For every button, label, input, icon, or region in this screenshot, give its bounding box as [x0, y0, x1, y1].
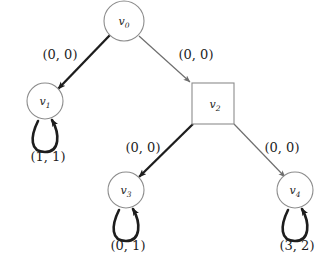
edge-group — [58, 35, 285, 177]
node-v0[interactable]: v0 — [104, 1, 144, 41]
self-loop-v1-path — [33, 120, 58, 152]
self-loop-v1[interactable] — [33, 120, 58, 152]
edge-label-v0-v1: (0, 0) — [43, 47, 78, 62]
edge-v0-v1-line — [58, 35, 110, 89]
self-loop-v4-path — [283, 209, 308, 241]
weight-label-group: (1, 1) (0, 1) (3, 2) — [31, 149, 315, 253]
edge-label-group: (0, 0) (0, 0) (0, 0) (0, 0) — [43, 47, 300, 155]
node-v4[interactable]: v4 — [277, 172, 313, 208]
edge-label-v0-v2: (0, 0) — [179, 47, 214, 62]
edge-v0-v1[interactable] — [58, 35, 110, 89]
graph-diagram: v0 v1 v2 v3 v4 — [0, 0, 325, 272]
node-v3[interactable]: v3 — [108, 172, 144, 208]
weight-label-v1: (1, 1) — [31, 149, 66, 164]
node-v1[interactable]: v1 — [27, 83, 63, 119]
self-loop-v3[interactable] — [114, 209, 139, 241]
weight-label-v4: (3, 2) — [280, 238, 315, 253]
edge-label-v2-v3: (0, 0) — [126, 140, 161, 155]
self-loop-group — [33, 120, 308, 241]
self-loop-v4[interactable] — [283, 209, 308, 241]
node-group: v0 v1 v2 v3 v4 — [27, 1, 313, 208]
edge-label-v2-v4: (0, 0) — [265, 140, 300, 155]
weight-label-v3: (0, 1) — [111, 238, 146, 253]
self-loop-v3-path — [114, 209, 139, 241]
graph-canvas: v0 v1 v2 v3 v4 — [0, 0, 325, 272]
node-v2[interactable]: v2 — [192, 83, 234, 124]
